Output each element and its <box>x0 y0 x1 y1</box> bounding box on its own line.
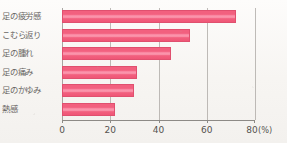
gridline-80 <box>255 8 256 120</box>
bar-category-5 <box>62 103 115 116</box>
gridline-60 <box>207 8 208 120</box>
bar-category-1 <box>62 29 190 42</box>
x-tick-mark <box>110 120 111 123</box>
x-tick-mark <box>207 120 208 123</box>
x-tick-label: 40 <box>153 125 164 135</box>
category-label: こむら返り <box>2 30 60 39</box>
category-label: 熱感 <box>2 104 60 113</box>
plot-area: 足の疲労感 こむら返り 足の腫れ 足の痛み 足のかゆみ 熱感 <box>0 0 287 143</box>
bar-category-4 <box>62 84 134 97</box>
x-tick-label: 60 <box>201 125 212 135</box>
x-tick-mark <box>254 120 255 123</box>
bar-category-0 <box>62 10 236 23</box>
category-axis: 足の疲労感 こむら返り 足の腫れ 足の痛み 足のかゆみ 熱感 <box>2 0 60 143</box>
x-tick-label: 0 <box>59 125 65 135</box>
category-label: 足の腫れ <box>2 49 60 58</box>
x-tick-mark <box>62 120 63 123</box>
category-label: 足の痛み <box>2 67 60 76</box>
x-tick-label: 80 <box>246 125 257 135</box>
x-tick-label: 20 <box>105 125 116 135</box>
gridline-40 <box>159 8 160 120</box>
bar-chart: 足の疲労感 こむら返り 足の腫れ 足の痛み 足のかゆみ 熱感 <box>0 0 287 143</box>
bar-category-3 <box>62 66 137 79</box>
category-label: 足の疲労感 <box>2 12 60 21</box>
bars-container <box>62 8 255 120</box>
x-tick-mark <box>159 120 160 123</box>
x-axis-unit-label: (%) <box>258 125 272 135</box>
category-label: 足のかゆみ <box>2 86 60 95</box>
bar-category-2 <box>62 47 171 60</box>
